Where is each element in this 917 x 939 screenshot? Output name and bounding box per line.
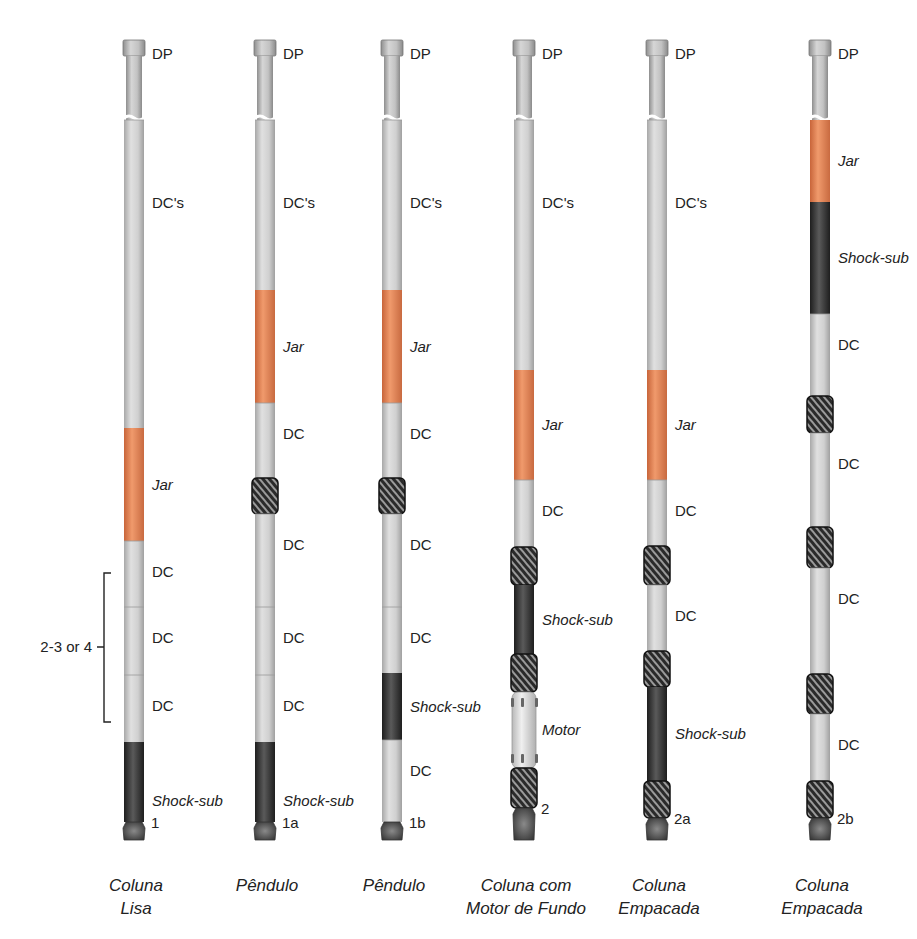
segment-dc: DC [255,675,305,742]
segment-label-shock: Shock-sub [542,611,613,628]
segment-label-shock: Shock-sub [410,698,481,715]
caption-line: Coluna [632,876,686,895]
segment-shock: Shock-sub [810,202,909,314]
segment-jar: Jar [255,290,305,403]
segment-jar: Jar [382,290,432,403]
segment-stab [644,781,670,818]
motor-pad [511,754,514,763]
column-number: 1 [151,814,159,831]
dc-count-bracket: 2-3 or 4 [40,573,111,722]
segment-jar: Jar [514,370,564,480]
segment-dc: DC's [647,120,707,370]
stabilizer-blade [511,547,537,585]
stabilizer-blade [807,781,833,818]
jar-body [647,370,667,480]
bracket-label: 2-3 or 4 [40,638,92,655]
segment-dc: DC [124,675,174,742]
segment-label-dc: DC [838,455,860,472]
segment-label-jar: Jar [837,152,860,169]
drill-pipe [126,56,142,120]
dp-tool-joint [123,40,145,56]
drill-collar [255,514,275,607]
dp-tool-joint [809,40,831,56]
segment-label-dc: DC [838,590,860,607]
motor-pad [535,698,538,707]
caption-line: Motor de Fundo [466,899,586,918]
segment-dc: DC [810,568,860,674]
column-number: 2b [837,810,854,827]
segment-dc: DC [810,314,860,396]
column-number: 1b [409,814,426,831]
segment-label-dc: DC [410,425,432,442]
column-caption: ColunaEmpacada [781,876,862,918]
drill-collar [124,675,144,742]
caption-line: Lisa [120,899,151,918]
segment-label-shock: Shock-sub [283,792,354,809]
segment-shock: Shock-sub [124,742,223,822]
motor-pad [511,698,514,707]
dp-tool-joint [646,40,668,56]
segment-label-shock: Shock-sub [675,725,746,742]
segment-dc: DC's [382,120,442,290]
drill-pipe [516,56,532,120]
drill-collar [382,403,402,478]
drill-collar [255,607,275,675]
jar-body [124,428,144,541]
column-number: 2 [541,800,549,817]
bha-column-2b: DPJarShock-subDCDCDCDC2bColunaEmpacada [781,40,909,918]
segment-stab [511,768,537,808]
segment-dc: DC's [255,120,315,290]
segment-label-shock: Shock-sub [838,249,909,266]
drill-collar [514,480,534,547]
drill-collar [382,514,402,607]
segment-label-dc: DC [152,697,174,714]
segment-label-dp: DP [152,45,173,62]
segment-stab [644,546,670,585]
segment-dc: DC [810,433,860,527]
segment-dp: DP [513,40,563,120]
drill-collar [255,403,275,478]
column-number: 1a [282,814,299,831]
drill-collar [124,120,144,428]
drill-bit [513,808,535,840]
segment-stab [379,478,405,514]
segment-jar: Jar [810,120,860,202]
drill-collar [810,568,830,674]
stabilizer-blade [511,768,537,808]
segment-motor: Motor [511,692,581,768]
segment-shock: Shock-sub [382,673,481,740]
bha-column-1a: DPDC'sJarDCDCDCDCShock-sub1aPêndulo [236,40,354,895]
drill-collar [514,120,534,370]
jar-body [810,120,830,202]
segment-label-dp: DP [675,45,696,62]
segment-dp: DP [809,40,859,120]
column-caption: Coluna comMotor de Fundo [466,876,586,918]
segment-label-dc: DC's [152,194,184,211]
dp-tool-joint [513,40,535,56]
segment-dc: DC [124,607,174,675]
segment-label-dp: DP [838,45,859,62]
segment-dc: DC [124,541,174,607]
segment-dc: DC's [124,120,184,428]
stabilizer-blade [807,396,833,433]
dp-tool-joint [254,40,276,56]
segment-label-shock: Shock-sub [152,792,223,809]
segment-dc: DC [382,514,432,607]
segment-dp: DP [123,40,173,120]
drill-collar [382,740,402,822]
segment-label-dc: DC's [410,194,442,211]
caption-line: Coluna com [481,876,572,895]
stabilizer-blade [644,546,670,585]
bha-column-1b: DPDC'sJarDCDCDCShock-subDC1bPêndulo [363,40,481,895]
segment-label-jar: Jar [541,416,564,433]
segment-label-dc: DC [675,502,697,519]
segment-label-dc: DC [283,425,305,442]
segment-label-dc: DC [283,629,305,646]
caption-line: Coluna [795,876,849,895]
caption-line: Pêndulo [236,876,298,895]
segment-dc: DC [382,403,432,478]
segment-dc: DC [647,585,697,651]
drill-pipe [257,56,273,120]
segment-dc: DC [382,740,432,822]
segment-label-dc: DC [152,629,174,646]
